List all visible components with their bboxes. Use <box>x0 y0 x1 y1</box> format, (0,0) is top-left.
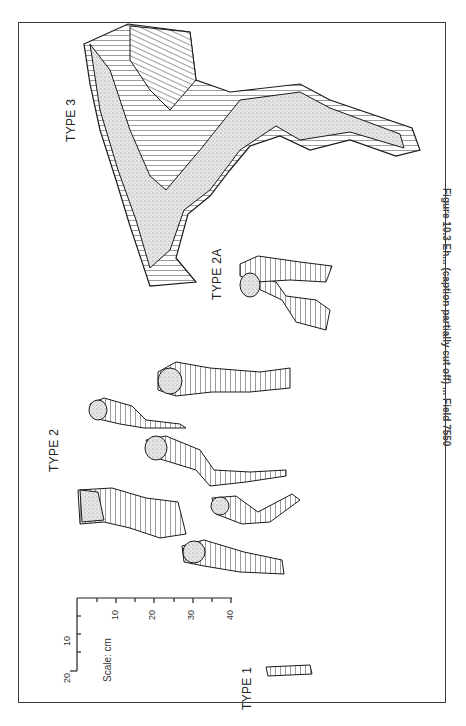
type1-specimen <box>266 665 312 676</box>
type2a-label: TYPE 2A <box>210 249 224 300</box>
type2-specimens <box>78 362 300 574</box>
figure-caption: Figure 10.3 Eh... (caption partially cut… <box>441 188 452 446</box>
scale-tick-v-10: 10 <box>62 636 72 646</box>
scale-tick-v-20: 20 <box>62 673 72 683</box>
scale-bar <box>70 598 232 671</box>
type3-label: TYPE 3 <box>64 99 78 142</box>
type3-specimen <box>84 24 420 286</box>
scale-tick-h-40: 40 <box>225 610 235 620</box>
scale-tick-h-10: 10 <box>110 610 120 620</box>
type1-label: TYPE 1 <box>240 667 254 710</box>
scale-title: Scale: cm <box>102 638 113 682</box>
type2a-specimen <box>240 256 332 330</box>
scale-tick-h-20: 20 <box>147 610 157 620</box>
type2-label: TYPE 2 <box>47 429 61 472</box>
scale-tick-h-30: 30 <box>186 610 196 620</box>
